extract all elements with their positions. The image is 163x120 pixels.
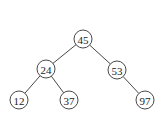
tree-node-45: 45 <box>74 30 92 48</box>
node-value: 97 <box>140 95 152 107</box>
node-value: 12 <box>14 95 25 107</box>
tree-node-24: 24 <box>37 60 55 78</box>
tree-edge <box>51 76 63 93</box>
node-value: 24 <box>41 64 53 76</box>
node-value: 53 <box>112 65 124 77</box>
node-value: 37 <box>64 95 76 107</box>
tree-node-97: 97 <box>136 91 154 109</box>
tree-edge <box>25 76 40 93</box>
tree-edge <box>53 45 76 64</box>
tree-edge <box>123 77 139 94</box>
tree-nodes: 452453123797 <box>10 30 154 109</box>
tree-edge <box>90 45 111 64</box>
binary-tree-diagram: 452453123797 <box>0 0 163 120</box>
tree-node-53: 53 <box>108 61 126 79</box>
tree-node-37: 37 <box>60 91 78 109</box>
tree-node-12: 12 <box>10 91 28 109</box>
node-value: 45 <box>78 34 90 46</box>
